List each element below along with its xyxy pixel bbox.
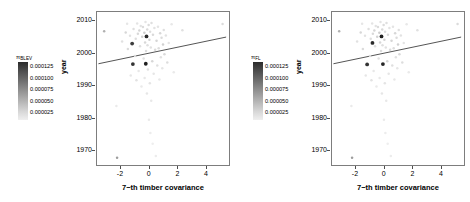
scatter-point <box>398 53 401 56</box>
scatter-point <box>145 50 148 53</box>
scatter-point <box>126 22 129 25</box>
x-axis-tick-mark <box>120 166 121 169</box>
scatter-point <box>395 56 398 59</box>
scatter-point <box>144 41 147 44</box>
scatter-point <box>160 56 163 59</box>
scatter-point <box>387 73 390 76</box>
trendline-group-left <box>98 37 226 64</box>
scatter-point <box>338 30 341 33</box>
scatter-point <box>146 92 149 95</box>
scatter-point <box>378 32 381 35</box>
x-axis-tick-label: 0 <box>147 170 151 178</box>
colorbar-tick-label: 0.000075 <box>30 86 53 92</box>
scatter-svg-right <box>332 12 464 165</box>
x-axis-tick-mark <box>412 166 413 169</box>
scatter-point <box>402 42 405 45</box>
scatter-point <box>356 40 359 43</box>
colorbar-tick-label: 0.000075 <box>265 86 288 92</box>
scatter-point <box>382 24 385 27</box>
y-axis-tick-label: 1970 <box>76 146 92 154</box>
y-axis-tick-mark <box>327 53 330 54</box>
scatter-point <box>392 47 395 50</box>
x-axis-tick-mark <box>441 166 442 169</box>
colorbar-tick-label: 0.000025 <box>265 109 288 115</box>
scatter-point <box>139 45 142 48</box>
scatter-point <box>129 35 132 38</box>
colorbar-tick-label: 0.000100 <box>265 75 288 81</box>
scatter-point <box>369 55 372 58</box>
scatter-point <box>153 27 156 30</box>
scatter-point <box>362 48 365 51</box>
scatter-point <box>374 45 377 48</box>
panel-right: πFL 0.0001250.0001000.0000750.0000500.00… <box>235 0 470 202</box>
scatter-point <box>381 44 384 47</box>
scatter-point <box>132 28 135 31</box>
scatter-point <box>116 157 119 160</box>
scatter-point <box>365 63 369 67</box>
scatter-point <box>115 105 118 108</box>
scatter-point <box>138 29 141 32</box>
x-axis-tick-mark <box>206 166 207 169</box>
scatter-point <box>408 71 411 74</box>
scatter-point <box>150 100 153 103</box>
scatter-point <box>144 21 147 24</box>
scatter-point <box>166 61 169 64</box>
x-axis-label-left: 7−th timber covariance <box>122 183 204 192</box>
scatter-point <box>350 105 353 108</box>
colorbar-gradient-left <box>18 62 28 120</box>
scatter-point <box>167 42 170 45</box>
scatter-point <box>145 35 149 39</box>
scatter-point <box>397 29 400 32</box>
scatter-point <box>121 40 124 43</box>
scatter-point <box>380 50 383 53</box>
y-axis-tick-mark <box>327 20 330 21</box>
scatter-point <box>173 71 176 74</box>
scatter-point <box>137 70 140 73</box>
scatter-point <box>141 35 144 38</box>
scatter-point <box>383 38 386 41</box>
scatter-point <box>149 132 152 135</box>
x-axis-tick-label: 4 <box>439 170 443 178</box>
scatter-point <box>134 37 137 40</box>
scatter-point <box>388 27 391 30</box>
scatter-point <box>135 79 138 82</box>
scatter-point <box>151 143 154 146</box>
y-axis-tick-mark <box>327 150 330 151</box>
scatter-point <box>155 39 158 42</box>
y-axis-tick-mark <box>92 118 95 119</box>
scatter-point <box>369 37 372 40</box>
scatter-point <box>401 61 404 64</box>
two-panel-scatter-figure: πBLEV 0.0001250.0001000.0000750.0000500.… <box>0 0 470 202</box>
scatter-point <box>383 119 386 122</box>
scatter-point <box>148 38 151 41</box>
x-axis-tick-label: 2 <box>410 170 414 178</box>
scatter-point <box>384 132 387 135</box>
y-axis-tick-mark <box>92 53 95 54</box>
y-axis-tick-mark <box>92 20 95 21</box>
scatter-point <box>361 22 364 25</box>
scatter-point <box>375 85 378 88</box>
scatter-point <box>103 30 106 33</box>
legend-title-subscript: FL <box>255 56 261 61</box>
plot-area-left <box>96 11 230 166</box>
y-axis-tick-label: 1990 <box>76 81 92 89</box>
scatter-point <box>148 119 151 122</box>
x-axis-tick-mark <box>149 166 150 169</box>
scatter-point <box>129 74 132 77</box>
scatter-point <box>364 35 367 38</box>
y-axis-tick-label: 2000 <box>76 49 92 57</box>
scatter-point <box>371 41 375 45</box>
scatter-point <box>152 73 155 76</box>
scatter-point <box>159 32 162 35</box>
y-axis-tick-label: 1970 <box>311 146 327 154</box>
scatter-point <box>364 74 367 77</box>
scatter-point <box>389 49 392 52</box>
scatter-point <box>127 48 130 51</box>
scatter-point <box>162 29 165 32</box>
y-axis-tick-mark <box>327 118 330 119</box>
y-axis-tick-mark <box>92 150 95 151</box>
y-axis-tick-mark <box>327 85 330 86</box>
regression-line <box>333 37 461 64</box>
scatter-point <box>381 28 384 31</box>
scatter-point <box>131 62 135 66</box>
